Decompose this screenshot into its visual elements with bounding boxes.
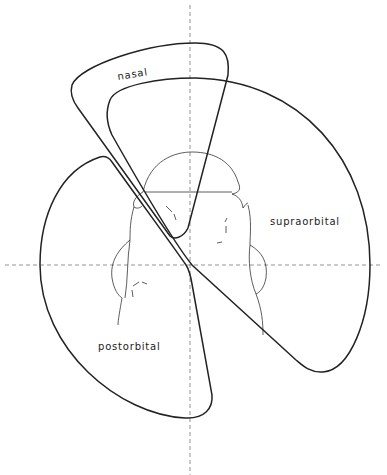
head-outline bbox=[112, 152, 267, 335]
nasal-region bbox=[71, 43, 228, 238]
supraorbital-label: supraorbital bbox=[270, 216, 340, 227]
field-diagram: nasal supraorbital postorbital bbox=[0, 0, 387, 475]
nasal-label: nasal bbox=[117, 66, 149, 82]
postorbital-label: postorbital bbox=[98, 341, 161, 352]
